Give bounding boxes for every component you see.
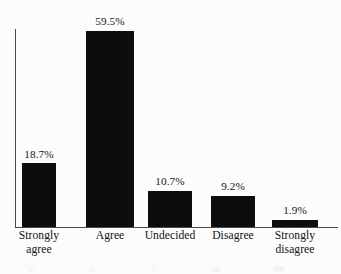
bar-label-line1: Agree — [85, 229, 135, 243]
bar-chart: 18.7% Strongly agree 59.5% Agree 10.7% U… — [0, 0, 341, 274]
scan-artifact — [0, 266, 341, 272]
bar-label-line2: disagree — [269, 243, 321, 257]
bar-label-line2: agree — [14, 243, 64, 257]
y-axis-line — [15, 29, 16, 228]
bar-label-agree: Agree — [85, 229, 135, 243]
bar-undecided — [148, 191, 192, 227]
bar-disagree — [211, 196, 255, 227]
bar-label-line1: Strongly — [14, 229, 64, 243]
plot-area: 18.7% Strongly agree 59.5% Agree 10.7% U… — [0, 0, 341, 274]
bar-value-strongly-disagree: 1.9% — [269, 204, 321, 217]
bar-label-line1: Disagree — [206, 229, 260, 243]
bar-label-disagree: Disagree — [206, 229, 260, 243]
bar-value-strongly-agree: 18.7% — [13, 148, 65, 161]
bar-value-undecided: 10.7% — [144, 175, 196, 188]
bar-agree — [86, 31, 134, 227]
bar-label-undecided: Undecided — [141, 229, 199, 243]
bar-label-strongly-disagree: Strongly disagree — [269, 229, 321, 257]
bar-label-strongly-agree: Strongly agree — [14, 229, 64, 257]
bar-strongly-agree — [22, 163, 56, 227]
bar-value-disagree: 9.2% — [207, 180, 259, 193]
bar-label-line1: Strongly — [269, 229, 321, 243]
bar-label-line1: Undecided — [141, 229, 199, 243]
bar-value-agree: 59.5% — [84, 15, 136, 28]
bar-strongly-disagree — [272, 220, 318, 227]
